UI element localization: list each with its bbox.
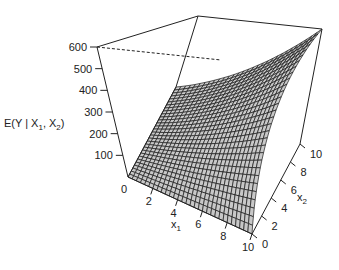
x2-tick <box>271 198 276 202</box>
x2-tick <box>300 144 305 148</box>
x2-tick <box>290 162 295 166</box>
x1-tick-label: 4 <box>171 207 177 219</box>
box-edge-top-back <box>198 16 322 29</box>
surface-facet <box>252 183 257 192</box>
z-tick-label: 100 <box>94 149 112 161</box>
x2-tick-label: 8 <box>300 166 306 178</box>
x2-tick-label: 6 <box>291 184 297 196</box>
surface-mesh <box>128 29 322 234</box>
x1-tick <box>151 188 153 194</box>
x1-tick-label: 2 <box>146 195 152 207</box>
surface-facet <box>250 199 255 208</box>
x2-axis-title: x2 <box>297 191 308 206</box>
z-tick-label: 400 <box>79 84 97 96</box>
z-tick-label: 500 <box>74 63 92 75</box>
box-edge-back-vertical <box>176 16 198 87</box>
x2-tick <box>252 234 257 238</box>
x1-tick <box>225 223 227 229</box>
x2-tick <box>281 180 286 184</box>
x1-tick-label: 10 <box>242 241 254 253</box>
z-axis: 0100200300400500600 <box>69 41 127 195</box>
x1-tick-label: 8 <box>220 230 226 242</box>
x1-axis-title: x1 <box>171 218 182 233</box>
x1-tick <box>250 234 252 240</box>
box-edge-top-front-dashed <box>97 47 221 60</box>
surface-plot: 0100200300400500600 246810 0246810 E(Y |… <box>0 0 339 270</box>
x1-tick <box>176 200 178 206</box>
z-tick-label: 300 <box>84 106 102 118</box>
x2-tick-label: 4 <box>281 202 287 214</box>
x1-tick <box>200 211 202 217</box>
z-tick-label: 600 <box>69 41 87 53</box>
box-edge-top-left <box>97 16 198 47</box>
surface-facet <box>251 191 256 200</box>
x2-tick-label: 10 <box>310 148 322 160</box>
x2-tick-label: 0 <box>262 238 268 250</box>
z-axis-title: E(Y | X1, X2) <box>4 117 64 132</box>
x1-tick-label: 6 <box>195 218 201 230</box>
x2-tick-label: 2 <box>272 220 278 232</box>
z-tick-label: 0 <box>121 183 127 195</box>
z-tick-label: 200 <box>89 128 107 140</box>
x2-axis: 0246810 <box>252 144 322 250</box>
x2-tick <box>262 216 267 220</box>
